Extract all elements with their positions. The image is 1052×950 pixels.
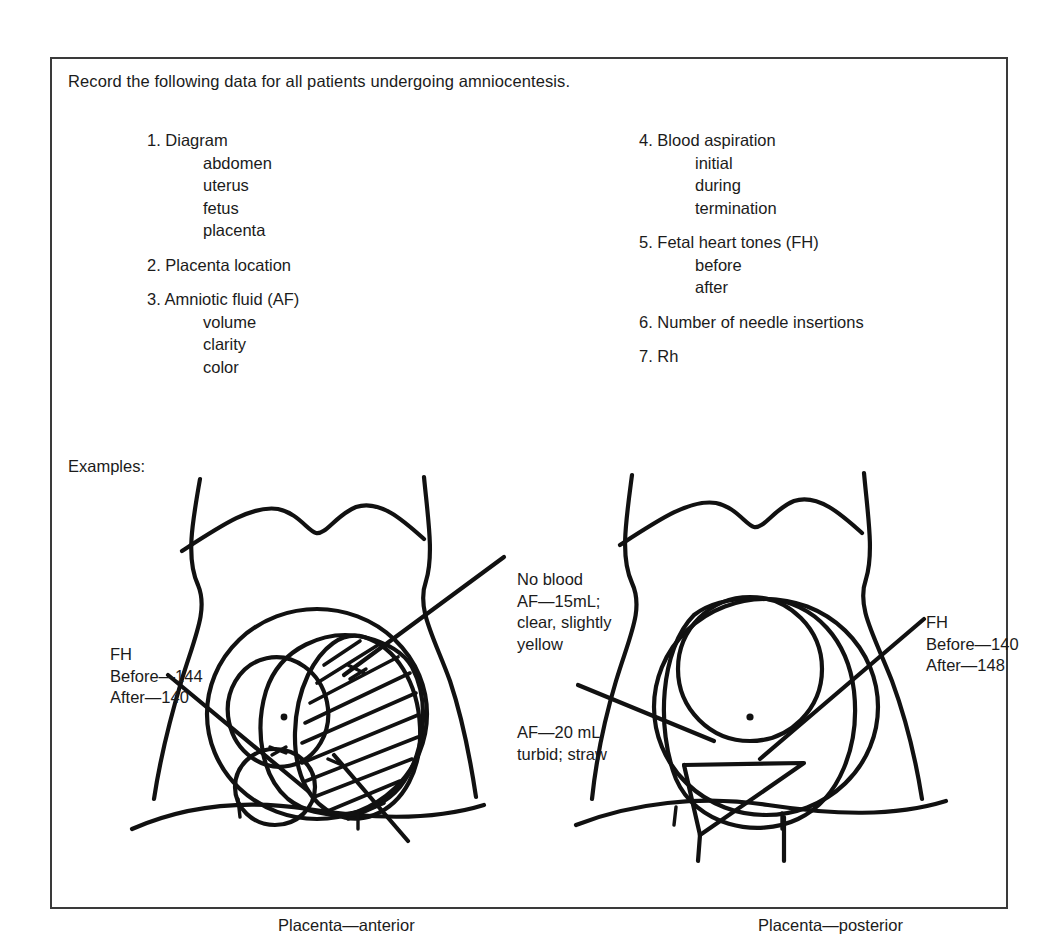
- checklist-item-4: 4. Blood aspiration initial during termi…: [639, 129, 864, 219]
- content-frame: Record the following data for all patien…: [50, 57, 1008, 909]
- af-annotation-left: No blood AF—15mL; clear, slightly yellow: [517, 569, 611, 655]
- checklist-item-3-label: 3. Amniotic fluid (AF): [147, 288, 299, 311]
- checklist-item-2: 2. Placenta location: [147, 254, 299, 277]
- checklist-item-2-number: 2.: [147, 256, 161, 274]
- spacer: [147, 242, 299, 254]
- checklist-item-5-text: Fetal heart tones (FH): [657, 233, 818, 251]
- checklist-item-4-label: 4. Blood aspiration: [639, 129, 864, 152]
- caption-placenta-anterior: Placenta—anterior: [278, 916, 415, 935]
- af-line-2-right: turbid; straw: [517, 744, 607, 766]
- checklist-item-2-text: Placenta location: [165, 256, 291, 274]
- checklist-item-6: 6. Number of needle insertions: [639, 311, 864, 334]
- checklist-item-3-text: Amniotic fluid (AF): [164, 290, 299, 308]
- af-line-4-left: yellow: [517, 634, 611, 656]
- checklist-item-6-label: 6. Number of needle insertions: [639, 311, 864, 334]
- checklist-item-1-sub-3: fetus: [203, 197, 299, 220]
- checklist-item-3: 3. Amniotic fluid (AF) volume clarity co…: [147, 288, 299, 378]
- fh-after-left: After—140: [110, 687, 203, 709]
- checklist-item-6-text: Number of needle insertions: [657, 313, 863, 331]
- checklist-left-column: 1. Diagram abdomen uterus fetus placenta…: [147, 129, 299, 378]
- checklist-item-5-sub-1: before: [695, 254, 864, 277]
- spacer: [639, 333, 864, 345]
- checklist-item-7-text: Rh: [657, 347, 678, 365]
- checklist-item-4-text: Blood aspiration: [657, 131, 775, 149]
- checklist-item-5: 5. Fetal heart tones (FH) before after: [639, 231, 864, 299]
- posterior-abdomen-drawing: [572, 469, 972, 869]
- checklist-item-4-number: 4.: [639, 131, 653, 149]
- checklist-item-5-number: 5.: [639, 233, 653, 251]
- af-line-1-left: No blood: [517, 569, 611, 591]
- checklist-item-5-sub-2: after: [695, 276, 864, 299]
- checklist-item-7: 7. Rh: [639, 345, 864, 368]
- spacer: [147, 276, 299, 288]
- checklist-item-2-label: 2. Placenta location: [147, 254, 299, 277]
- checklist-item-3-number: 3.: [147, 290, 161, 308]
- checklist-item-5-label: 5. Fetal heart tones (FH): [639, 231, 864, 254]
- checklist-item-3-sub-1: volume: [203, 311, 299, 334]
- af-line-3-left: clear, slightly: [517, 612, 611, 634]
- checklist-item-6-number: 6.: [639, 313, 653, 331]
- fh-before-right: Before—140: [926, 634, 1019, 656]
- fh-label-left: FH: [110, 644, 203, 666]
- checklist-item-4-sub-2: during: [695, 174, 864, 197]
- checklist-item-7-number: 7.: [639, 347, 653, 365]
- checklist-item-1-sub-4: placenta: [203, 219, 299, 242]
- af-line-2-left: AF—15mL;: [517, 591, 611, 613]
- checklist-item-1-sub-2: uterus: [203, 174, 299, 197]
- figure-placenta-posterior: [572, 469, 972, 869]
- fh-before-left: Before—144: [110, 666, 203, 688]
- checklist-right-column: 4. Blood aspiration initial during termi…: [639, 129, 864, 368]
- spacer: [639, 219, 864, 231]
- checklist-item-4-sub-3: termination: [695, 197, 864, 220]
- fh-annotation-right: FH Before—140 After—148: [926, 612, 1019, 677]
- checklist-item-1-text: Diagram: [165, 131, 227, 149]
- intro-instruction: Record the following data for all patien…: [68, 72, 570, 91]
- af-line-1-right: AF—20 mL: [517, 722, 607, 744]
- caption-placenta-posterior: Placenta—posterior: [758, 916, 903, 935]
- checklist-item-1-sub-1: abdomen: [203, 152, 299, 175]
- checklist-item-1-number: 1.: [147, 131, 161, 149]
- spacer: [639, 299, 864, 311]
- checklist-item-3-sub-2: clarity: [203, 333, 299, 356]
- af-annotation-right: AF—20 mL turbid; straw: [517, 722, 607, 765]
- checklist-item-7-label: 7. Rh: [639, 345, 864, 368]
- checklist-item-4-sub-1: initial: [695, 152, 864, 175]
- checklist-item-1-label: 1. Diagram: [147, 129, 299, 152]
- fh-after-right: After—148: [926, 655, 1019, 677]
- fh-annotation-left: FH Before—144 After—140: [110, 644, 203, 709]
- checklist-item-3-sub-3: color: [203, 356, 299, 379]
- checklist-item-1: 1. Diagram abdomen uterus fetus placenta: [147, 129, 299, 242]
- fh-label-right: FH: [926, 612, 1019, 634]
